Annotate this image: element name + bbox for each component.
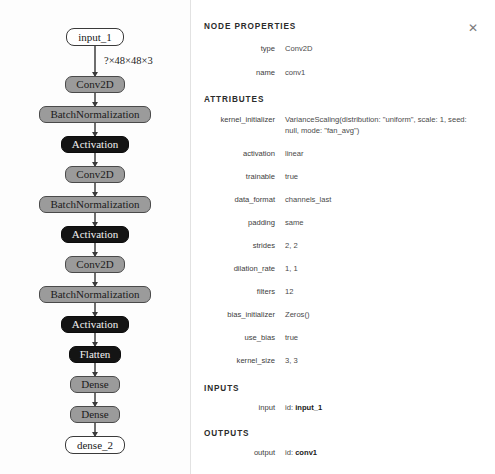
panel-header: NODE PROPERTIES ✕ [204, 0, 481, 34]
graph-node-batchnormalization[interactable]: BatchNormalization [39, 286, 150, 303]
property-id-value[interactable]: input_1 [295, 403, 322, 412]
property-value: id: conv1 [285, 447, 481, 458]
attribute-row: dilation_rate1, 1 [191, 263, 481, 274]
property-name: bias_initializer [191, 309, 285, 319]
property-value: linear [285, 148, 481, 159]
graph-edge [88, 93, 102, 106]
graph-node-activation[interactable]: Activation [61, 316, 129, 333]
property-value: Zeros() [285, 309, 481, 320]
graph-edge [88, 123, 102, 136]
graph-edge [88, 273, 102, 286]
property-value: VarianceScaling(distribution: "uniform",… [285, 114, 481, 136]
property-name: use_bias [191, 332, 285, 342]
basic-property-row: typeConv2D [191, 43, 481, 54]
graph-node-flatten[interactable]: Flatten [69, 346, 122, 363]
property-name: padding [191, 217, 285, 227]
property-value: id: input_1 [285, 402, 481, 413]
attributes-section-title: ATTRIBUTES [204, 95, 481, 104]
property-id-label: id: [285, 403, 295, 412]
property-name: data_format [191, 194, 285, 204]
property-value: conv1 [285, 67, 481, 78]
model-graph-node-stack: input_1?×48×48×3Conv2DBatchNormalization… [0, 28, 190, 454]
property-name: dilation_rate [191, 263, 285, 273]
attribute-row: data_formatchannels_last [191, 194, 481, 205]
graph-node-activation[interactable]: Activation [61, 226, 129, 243]
graph-node-dense[interactable]: Dense [70, 406, 120, 423]
attribute-row: trainabletrue [191, 171, 481, 182]
property-name: strides [191, 240, 285, 250]
property-name: output [191, 447, 285, 457]
property-name: kernel_size [191, 355, 285, 365]
graph-edge [88, 183, 102, 196]
attribute-row: use_biastrue [191, 332, 481, 343]
property-value: same [285, 217, 481, 228]
graph-node-conv2d[interactable]: Conv2D [65, 166, 124, 183]
property-name: activation [191, 148, 285, 158]
graph-edge [88, 303, 102, 316]
graph-edge-shape-label: ?×48×48×3 [104, 55, 153, 66]
graph-edge [88, 363, 102, 376]
graph-node-batchnormalization[interactable]: BatchNormalization [39, 196, 150, 213]
property-value: channels_last [285, 194, 481, 205]
output-row: outputid: conv1 [191, 447, 481, 458]
attribute-row: paddingsame [191, 217, 481, 228]
node-basic-properties: typeConv2Dnameconv1 [191, 43, 481, 78]
graph-node-dense[interactable]: Dense [70, 376, 120, 393]
graph-node-conv2d[interactable]: Conv2D [65, 76, 124, 93]
property-value: true [285, 332, 481, 343]
panel-divider [190, 0, 191, 474]
property-name: kernel_initializer [191, 114, 285, 124]
attribute-row: filters12 [191, 286, 481, 297]
graph-edge [88, 393, 102, 406]
outputs-section-title: OUTPUTS [204, 429, 481, 438]
property-value: true [285, 171, 481, 182]
graph-node-input_1[interactable]: input_1 [66, 28, 124, 46]
graph-node-conv2d[interactable]: Conv2D [65, 256, 124, 273]
close-icon[interactable]: ✕ [466, 22, 480, 34]
property-value: 12 [285, 286, 481, 297]
attribute-row: kernel_size3, 3 [191, 355, 481, 366]
graph-edge [88, 213, 102, 226]
inputs-section-title: INPUTS [204, 384, 481, 393]
property-value: 1, 1 [285, 263, 481, 274]
property-name: name [191, 67, 285, 77]
node-outputs-list: outputid: conv1 [191, 447, 481, 458]
graph-edge [88, 423, 102, 436]
graph-edge: ?×48×48×3 [88, 46, 102, 76]
graph-edge [88, 333, 102, 346]
attribute-row: bias_initializerZeros() [191, 309, 481, 320]
property-value: 2, 2 [285, 240, 481, 251]
node-attributes-list: kernel_initializerVarianceScaling(distri… [191, 114, 481, 366]
graph-edge [88, 243, 102, 256]
property-name: type [191, 43, 285, 53]
input-row: inputid: input_1 [191, 402, 481, 413]
basic-property-row: nameconv1 [191, 67, 481, 78]
property-id-label: id: [285, 448, 295, 457]
property-name: trainable [191, 171, 285, 181]
page-title: NODE PROPERTIES [204, 22, 296, 31]
graph-node-dense_2[interactable]: dense_2 [65, 436, 125, 454]
graph-edge [88, 153, 102, 166]
attribute-row: kernel_initializerVarianceScaling(distri… [191, 114, 481, 136]
model-graph-canvas[interactable]: input_1?×48×48×3Conv2DBatchNormalization… [0, 0, 190, 474]
node-inputs-list: inputid: input_1 [191, 402, 481, 413]
property-id-value[interactable]: conv1 [295, 448, 317, 457]
attribute-row: strides2, 2 [191, 240, 481, 251]
property-name: input [191, 402, 285, 412]
node-properties-panel: NODE PROPERTIES ✕ typeConv2Dnameconv1 AT… [191, 0, 495, 474]
graph-node-batchnormalization[interactable]: BatchNormalization [39, 106, 150, 123]
attribute-row: activationlinear [191, 148, 481, 159]
property-value: 3, 3 [285, 355, 481, 366]
property-value: Conv2D [285, 43, 481, 54]
property-name: filters [191, 286, 285, 296]
graph-node-activation[interactable]: Activation [61, 136, 129, 153]
